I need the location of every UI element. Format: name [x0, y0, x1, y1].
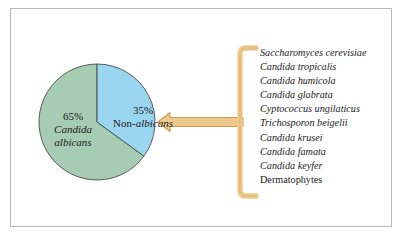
slice-label-albicans: 65% Candida albicans: [31, 110, 115, 149]
species-list: Saccharomyces cerevisiaeCandida tropical…: [260, 46, 400, 187]
species-list-item: Saccharomyces cerevisiae: [260, 46, 400, 60]
species-list-item: Trichosporon beigelii: [260, 116, 400, 130]
non-albicans-name: Non-albicans: [104, 117, 182, 130]
species-list-item: Dermatophytes: [260, 173, 400, 187]
figure-container: 65% Candida albicans 35% Non-albicans Sa…: [0, 0, 404, 239]
species-list-item: Candida glabrata: [260, 88, 400, 102]
albicans-percent: 65%: [31, 110, 115, 123]
non-albicans-italic: albicans: [136, 117, 173, 129]
connector-bracket: [240, 48, 256, 196]
species-list-item: Candida krusei: [260, 131, 400, 145]
albicans-species: albicans: [31, 136, 115, 149]
species-list-item: Candida famata: [260, 145, 400, 159]
non-albicans-percent: 35%: [104, 104, 182, 117]
albicans-genus: Candida: [31, 123, 115, 136]
species-list-item: Candida tropicalis: [260, 60, 400, 74]
species-list-item: Candida keyfer: [260, 159, 400, 173]
slice-label-non-albicans: 35% Non-albicans: [104, 104, 182, 130]
species-list-item: Candida humicola: [260, 74, 400, 88]
non-albicans-prefix: Non-: [113, 117, 136, 129]
species-list-item: Cyptococcus ungilaticus: [260, 102, 400, 116]
